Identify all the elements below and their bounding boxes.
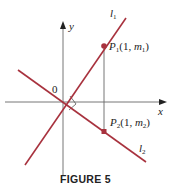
line-l1-label: l1 <box>110 7 117 21</box>
y-axis-arrow-icon <box>60 21 66 29</box>
point-p2-label: P2(1, m2) <box>109 116 150 130</box>
point-p1-label: P1(1, m1) <box>108 40 149 54</box>
origin-label: 0 <box>52 83 58 95</box>
point-p2 <box>102 129 107 134</box>
figure-caption: FIGURE 5 <box>60 173 111 185</box>
y-axis-label: y <box>68 20 74 32</box>
point-p1 <box>101 43 107 49</box>
x-axis-label: x <box>157 105 163 117</box>
perpendicular-lines-diagram: y x 0 l1 l2 P1(1, m1) P2(1, m2) FIGURE 5 <box>0 0 174 189</box>
line-l2-label: l2 <box>139 142 146 156</box>
figure-5: y x 0 l1 l2 P1(1, m1) P2(1, m2) FIGURE 5 <box>0 0 174 189</box>
